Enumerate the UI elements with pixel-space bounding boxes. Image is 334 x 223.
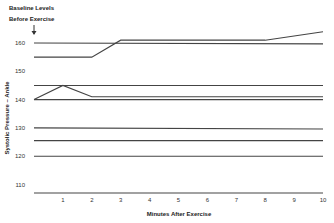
annotation-line-1: Baseline Levels	[9, 5, 55, 11]
x-tick-label: 3	[119, 197, 123, 203]
series-line-subject-6	[34, 128, 323, 129]
x-tick-label: 8	[264, 197, 268, 203]
y-tick-label: 140	[15, 97, 26, 103]
x-tick-label: 7	[235, 197, 239, 203]
series-line-subject-4	[34, 85, 323, 99]
x-tick-label: 6	[206, 197, 210, 203]
down-arrow-icon	[32, 25, 37, 35]
x-tick-label: 10	[320, 197, 327, 203]
series-line-subject-1	[34, 43, 323, 44]
line-chart: Baseline Levels Before Exercise Systolic…	[0, 0, 334, 223]
y-tick-label: 150	[15, 68, 26, 74]
x-tick-label: 5	[177, 197, 181, 203]
y-tick-label: 110	[15, 182, 25, 188]
y-tick-label: 120	[15, 153, 26, 159]
x-tick-labels: 12345678910	[61, 197, 327, 203]
annotation-line-2: Before Exercise	[9, 16, 55, 22]
x-tick-label: 2	[90, 197, 94, 203]
x-tick-label: 9	[292, 197, 296, 203]
y-tick-labels: 160150140130120110	[15, 40, 26, 188]
series-line-subject-2	[34, 32, 323, 57]
x-axis-label: Minutes After Exercise	[147, 211, 212, 217]
y-tick-label: 160	[15, 40, 26, 46]
y-tick-label: 130	[15, 125, 26, 131]
x-tick-label: 1	[61, 197, 65, 203]
x-tick-label: 4	[148, 197, 152, 203]
y-axis-label: Systolic Pressure – Ankle	[4, 81, 10, 155]
series-lines	[34, 32, 323, 193]
